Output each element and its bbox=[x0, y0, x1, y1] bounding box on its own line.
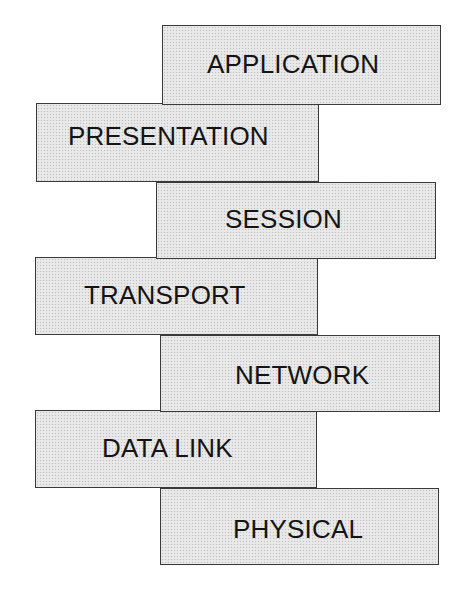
layer-box-session: SESSION bbox=[156, 182, 436, 259]
layer-box-transport: TRANSPORT bbox=[35, 257, 318, 335]
layer-label-data-link: DATA LINK bbox=[102, 435, 233, 461]
layer-label-physical: PHYSICAL bbox=[233, 516, 363, 542]
layer-box-physical: PHYSICAL bbox=[160, 488, 439, 565]
layer-label-session: SESSION bbox=[225, 206, 342, 232]
layer-box-data-link: DATA LINK bbox=[35, 410, 317, 488]
layer-box-application: APPLICATION bbox=[162, 25, 441, 105]
layer-label-application: APPLICATION bbox=[207, 51, 379, 77]
layer-label-transport: TRANSPORT bbox=[84, 282, 246, 308]
osi-layer-stack-diagram: PHYSICAL DATA LINK NETWORK TRANSPORT SES… bbox=[0, 0, 476, 599]
layer-label-network: NETWORK bbox=[235, 362, 369, 388]
layer-box-network: NETWORK bbox=[160, 335, 440, 412]
layer-box-presentation: PRESENTATION bbox=[36, 103, 319, 182]
layer-label-presentation: PRESENTATION bbox=[68, 123, 269, 149]
